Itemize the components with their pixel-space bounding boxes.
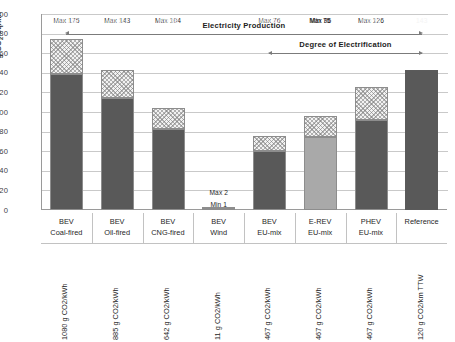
x-unit-label: 467 g CO2/kWh <box>314 245 323 340</box>
x-category-separator <box>193 213 194 243</box>
x-category-separator <box>295 213 296 243</box>
x-axis-category-labels: BEVCoal-firedBEVOil-firedBEVCNG-firedBEV… <box>41 213 447 243</box>
bar-segment-min[interactable] <box>152 129 185 210</box>
x-category-line2: EU-mix <box>346 228 397 239</box>
y-axis-tick: 0 <box>0 206 8 215</box>
annotation-label: Degree of Electrification <box>269 40 421 49</box>
x-unit-label: 467 g CO2/kWh <box>263 245 272 340</box>
x-category-label: BEVCoal-fired <box>41 217 92 238</box>
bar-slot[interactable]: Max 2Min 1 <box>193 14 244 210</box>
x-category-line1: BEV <box>143 217 194 228</box>
x-category-line1: BEV <box>244 217 295 228</box>
x-category-line2: CNG-fired <box>143 228 194 239</box>
x-category-label: BEVWind <box>193 217 244 238</box>
x-category-line1: BEV <box>41 217 92 228</box>
x-unit-label: 11 g CO2/kWh <box>213 245 222 340</box>
x-category-label: BEVOil-fired <box>92 217 143 238</box>
bar-segment-min[interactable] <box>101 98 134 210</box>
bar-segment-min[interactable] <box>304 137 337 211</box>
y-axis-title-subscript: 2 <box>0 37 4 40</box>
arrow-left-icon <box>268 51 272 55</box>
bar-slot[interactable]: Max 104Min 83 <box>143 14 194 210</box>
x-category-line2: EU-mix <box>295 228 346 239</box>
y-axis-tick: 20 <box>0 186 8 195</box>
x-category-label: E-REVEU-mix <box>295 217 346 238</box>
bar-slot[interactable]: Max 175Min 139 <box>41 14 92 210</box>
x-unit-label: 467 g CO2/kWh <box>365 245 374 340</box>
x-category-separator <box>396 213 397 243</box>
x-category-separator <box>244 213 245 243</box>
x-unit-label: 642 g CO2/kWh <box>162 245 171 340</box>
y-axis-title-suffix: -eq/km <box>0 12 3 37</box>
y-axis-title: g CO2-eq/km <box>0 0 4 95</box>
y-axis-tick: 40 <box>0 166 8 175</box>
bar-segment-min[interactable] <box>50 74 83 210</box>
y-axis-tick: 100 <box>0 108 8 117</box>
arrow-right-icon <box>419 31 423 35</box>
x-category-label: BEVEU-mix <box>244 217 295 238</box>
bar-segment-min[interactable] <box>405 70 438 210</box>
arrow-right-icon <box>419 51 423 55</box>
x-category-separator <box>92 213 93 243</box>
bar-segment-min[interactable] <box>355 120 388 210</box>
x-unit-label: 885 g CO2/kWh <box>111 245 120 340</box>
x-category-line1: E-REV <box>295 217 346 228</box>
bar-label-min: Min 1 <box>202 201 235 208</box>
arrow-left-icon <box>65 31 69 35</box>
x-category-line2: Wind <box>193 228 244 239</box>
chart-container: 200180160140120100806040200 g CO2-eq/km … <box>0 0 455 342</box>
x-axis-unit-labels: 1080 g CO2/kWh885 g CO2/kWh642 g CO2/kWh… <box>41 245 447 340</box>
x-category-line1: Reference <box>396 217 447 228</box>
x-unit-label: 120 g CO2/km TTW <box>416 245 425 340</box>
bar-label-max: Max 2 <box>202 189 235 196</box>
x-category-line1: BEV <box>92 217 143 228</box>
bar-label-min: Min 83 <box>152 17 185 139</box>
x-category-line2: Coal-fired <box>41 228 92 239</box>
bar-stack[interactable] <box>202 208 235 210</box>
y-axis-tick: 80 <box>0 127 8 136</box>
x-category-line1: BEV <box>193 217 244 228</box>
annotation-line <box>66 34 421 35</box>
x-category-line2: Oil-fired <box>92 228 143 239</box>
x-category-line2: EU-mix <box>244 228 295 239</box>
bar-stack[interactable] <box>405 70 438 210</box>
x-category-separator <box>346 213 347 243</box>
x-category-separator <box>143 213 144 243</box>
x-category-label: PHEVEU-mix <box>346 217 397 238</box>
bar-label-min: Min 75 <box>304 17 337 147</box>
x-category-label: BEVCNG-fired <box>143 217 194 238</box>
annotation-label: Electricity Production <box>66 21 421 30</box>
bar-label-min: Min 60 <box>253 17 286 161</box>
annotation-line <box>269 53 421 54</box>
bar-label-min: Min 114 <box>101 17 134 108</box>
y-axis-tick: 60 <box>0 147 8 156</box>
y-axis-title-prefix: g CO <box>0 40 3 58</box>
bar-slot[interactable]: Max 143Min 114 <box>92 14 143 210</box>
x-category-line1: PHEV <box>346 217 397 228</box>
x-axis-divider <box>41 243 447 244</box>
x-unit-label: 1080 g CO2/kWh <box>60 245 69 340</box>
x-category-label: Reference <box>396 217 447 228</box>
